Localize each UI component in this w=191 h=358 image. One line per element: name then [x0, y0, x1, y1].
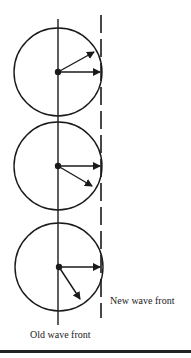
- wavelet-3-arrow-down: [59, 267, 80, 299]
- source-point-2: [55, 163, 61, 169]
- wavelet-2-arrow-down: [58, 166, 92, 186]
- source-point-3: [56, 264, 62, 270]
- source-point-1: [55, 69, 61, 75]
- bottom-rule: [0, 350, 191, 353]
- old-wave-front-label: Old wave front: [30, 329, 91, 340]
- new-wave-front-label: New wave front: [110, 295, 174, 306]
- wavelet-1-arrow-up: [58, 52, 94, 72]
